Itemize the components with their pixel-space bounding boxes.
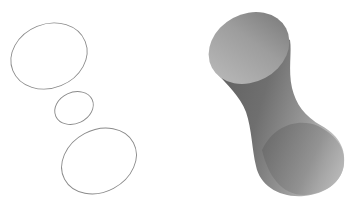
figure-canvas [0, 0, 355, 209]
cross-sections [1, 12, 148, 207]
bottom-cross-section-ellipse [50, 115, 148, 206]
waist-cross-section-ellipse [49, 85, 98, 130]
hyperboloid-surface [196, 0, 344, 196]
top-cross-section-ellipse [1, 12, 97, 101]
figure [0, 0, 355, 209]
